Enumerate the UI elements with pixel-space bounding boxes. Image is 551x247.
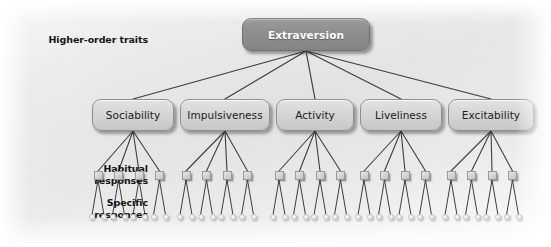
- node-trait-impulsiveness: Impulsiveness: [180, 99, 270, 131]
- specific-response-node: [151, 214, 157, 220]
- connector-line: [306, 51, 401, 99]
- specific-response-node: [332, 214, 338, 220]
- row-label-habitual-responses: Habitual responses: [0, 163, 148, 186]
- connector-line: [358, 180, 364, 215]
- specific-response-node: [270, 214, 276, 220]
- habitual-response-node: [467, 171, 476, 180]
- connector-line: [399, 180, 405, 215]
- connector-line: [273, 180, 279, 215]
- connector-line: [207, 131, 226, 171]
- row-label-higher-order-traits: Higher-order traits: [0, 34, 148, 46]
- habitual-response-node: [182, 171, 191, 180]
- habitual-response-node: [401, 171, 410, 180]
- node-trait-liveliness: Liveliness: [360, 99, 442, 131]
- connector-line: [472, 131, 492, 171]
- connector-line: [306, 51, 315, 99]
- specific-response-node: [475, 214, 481, 220]
- specific-response-node: [396, 214, 402, 220]
- specific-response-node: [303, 214, 309, 220]
- connector-line: [364, 180, 370, 215]
- connector-line: [405, 180, 411, 215]
- specific-response-node: [130, 214, 136, 220]
- specific-response-node: [454, 214, 460, 220]
- specific-response-node: [516, 214, 522, 220]
- habitual-response-node: [447, 171, 456, 180]
- specific-response-node: [495, 214, 501, 220]
- connector-line: [445, 180, 451, 215]
- connector-line: [225, 131, 248, 171]
- connector-line: [201, 180, 207, 215]
- connector-line: [225, 131, 227, 171]
- habitual-response-node: [223, 171, 232, 180]
- specific-response-node: [163, 214, 169, 220]
- habitual-response-node: [380, 171, 389, 180]
- specific-response-node: [442, 214, 448, 220]
- specific-response-node: [376, 214, 382, 220]
- node-trait-label: Excitability: [462, 109, 520, 121]
- connector-line: [491, 131, 513, 171]
- connector-line: [492, 180, 498, 215]
- node-extraversion-label: Extraversion: [268, 29, 344, 41]
- connector-line: [300, 180, 306, 215]
- connector-line: [225, 51, 306, 99]
- connector-line: [385, 180, 391, 215]
- node-extraversion: Extraversion: [242, 18, 370, 51]
- habitual-response-node: [508, 171, 517, 180]
- specific-response-node: [101, 214, 107, 220]
- specific-response-node: [483, 214, 489, 220]
- connector-line: [133, 51, 306, 99]
- node-trait-sociability: Sociability: [92, 99, 174, 131]
- specific-response-node: [282, 214, 288, 220]
- specific-response-node: [239, 214, 245, 220]
- connector-line: [279, 180, 285, 215]
- connector-line: [379, 180, 385, 215]
- connector-line: [486, 180, 492, 215]
- figure-canvas: Higher-order traits Traits Habitual resp…: [0, 0, 551, 247]
- specific-response-node: [177, 214, 183, 220]
- connector-line: [207, 180, 213, 215]
- specific-response-node: [408, 214, 414, 220]
- connector-line: [507, 180, 513, 215]
- connector-line: [186, 180, 192, 215]
- habitual-response-node: [135, 171, 144, 180]
- specific-response-node: [367, 214, 373, 220]
- node-trait-label: Activity: [295, 109, 335, 121]
- connector-line: [385, 131, 402, 171]
- habitual-response-node: [202, 171, 211, 180]
- specific-response-node: [504, 214, 510, 220]
- habitual-response-node: [488, 171, 497, 180]
- specific-response-node: [189, 214, 195, 220]
- connector-line: [180, 180, 186, 215]
- specific-response-node: [291, 214, 297, 220]
- habitual-response-node: [316, 171, 325, 180]
- specific-response-node: [388, 214, 394, 220]
- connector-line: [364, 131, 401, 171]
- habitual-response-node: [243, 171, 252, 180]
- node-trait-excitability: Excitability: [448, 99, 534, 131]
- specific-response-node: [344, 214, 350, 220]
- habitual-response-node: [114, 171, 123, 180]
- connector-line: [306, 51, 491, 99]
- habitual-response-node: [94, 171, 103, 180]
- habitual-response-node: [155, 171, 164, 180]
- connector-line: [160, 180, 166, 215]
- node-trait-activity: Activity: [276, 99, 354, 131]
- connector-line: [227, 180, 233, 215]
- connector-line: [451, 131, 491, 171]
- specific-response-node: [89, 214, 95, 220]
- specific-response-node: [142, 214, 148, 220]
- specific-response-node: [210, 214, 216, 220]
- connector-line: [426, 180, 432, 215]
- connector-line: [242, 180, 248, 215]
- connector-line: [314, 180, 320, 215]
- connector-line: [300, 131, 316, 171]
- connector-line: [491, 131, 492, 171]
- specific-response-node: [230, 214, 236, 220]
- connector-line: [472, 180, 478, 215]
- connector-line: [221, 180, 227, 215]
- habitual-response-node: [360, 171, 369, 180]
- node-trait-label: Impulsiveness: [187, 109, 262, 121]
- habitual-response-node: [295, 171, 304, 180]
- connector-line: [248, 180, 254, 215]
- specific-response-node: [417, 214, 423, 220]
